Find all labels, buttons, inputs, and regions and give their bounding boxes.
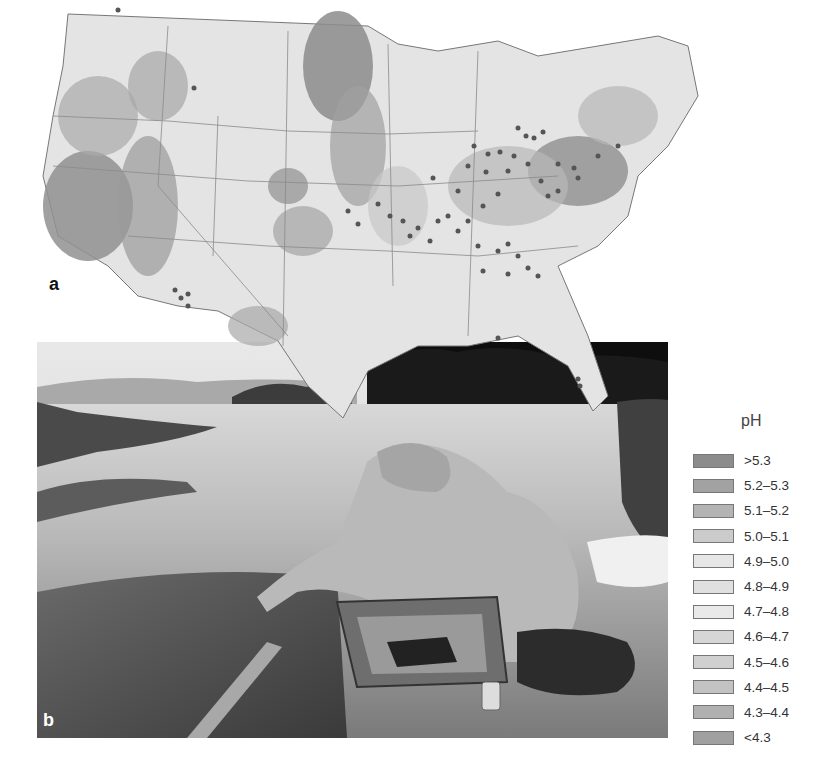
legend-swatch [693,630,734,644]
legend-label: 4.4–4.5 [744,680,789,695]
legend-label: 4.9–5.0 [744,554,789,569]
legend-item: 4.8–4.9 [693,574,823,599]
legend-label: 5.0–5.1 [744,529,789,544]
legend-swatch [693,605,734,619]
legend-item: 5.2–5.3 [693,473,823,498]
legend-swatch [693,655,734,669]
legend-swatch [693,504,734,518]
legend-swatch [693,454,734,468]
legend-swatch [693,479,734,493]
legend-label: 4.3–4.4 [744,705,789,720]
legend-label: 4.7–4.8 [744,604,789,619]
legend-label: <4.3 [744,730,771,745]
legend-label: 4.5–4.6 [744,655,789,670]
panel-a-label: a [49,274,59,295]
legend-label: 4.6–4.7 [744,629,789,644]
ph-legend: pH >5.3 5.2–5.3 5.1–5.2 5.0–5.1 4.9–5.0 … [693,412,823,750]
legend-label: 5.1–5.2 [744,503,789,518]
legend-label: >5.3 [744,453,771,468]
legend-item: 5.0–5.1 [693,524,823,549]
legend-swatch [693,705,734,719]
legend-item: 5.1–5.2 [693,498,823,523]
panel-b-label: b [43,710,54,731]
legend-item: >5.3 [693,448,823,473]
legend-label: 5.2–5.3 [744,478,789,493]
legend-item: 4.4–4.5 [693,675,823,700]
legend-label: 4.8–4.9 [744,579,789,594]
legend-swatch [693,529,734,543]
legend-title: pH [741,412,823,430]
legend-item: 4.3–4.4 [693,700,823,725]
legend-item: <4.3 [693,725,823,750]
us-ph-map [38,6,706,418]
legend-swatch [693,580,734,594]
legend-item: 4.7–4.8 [693,599,823,624]
legend-item: 4.5–4.6 [693,650,823,675]
legend-item: 4.6–4.7 [693,624,823,649]
legend-item: 4.9–5.0 [693,549,823,574]
legend-swatch [693,554,734,568]
legend-swatch [693,731,734,745]
legend-swatch [693,680,734,694]
